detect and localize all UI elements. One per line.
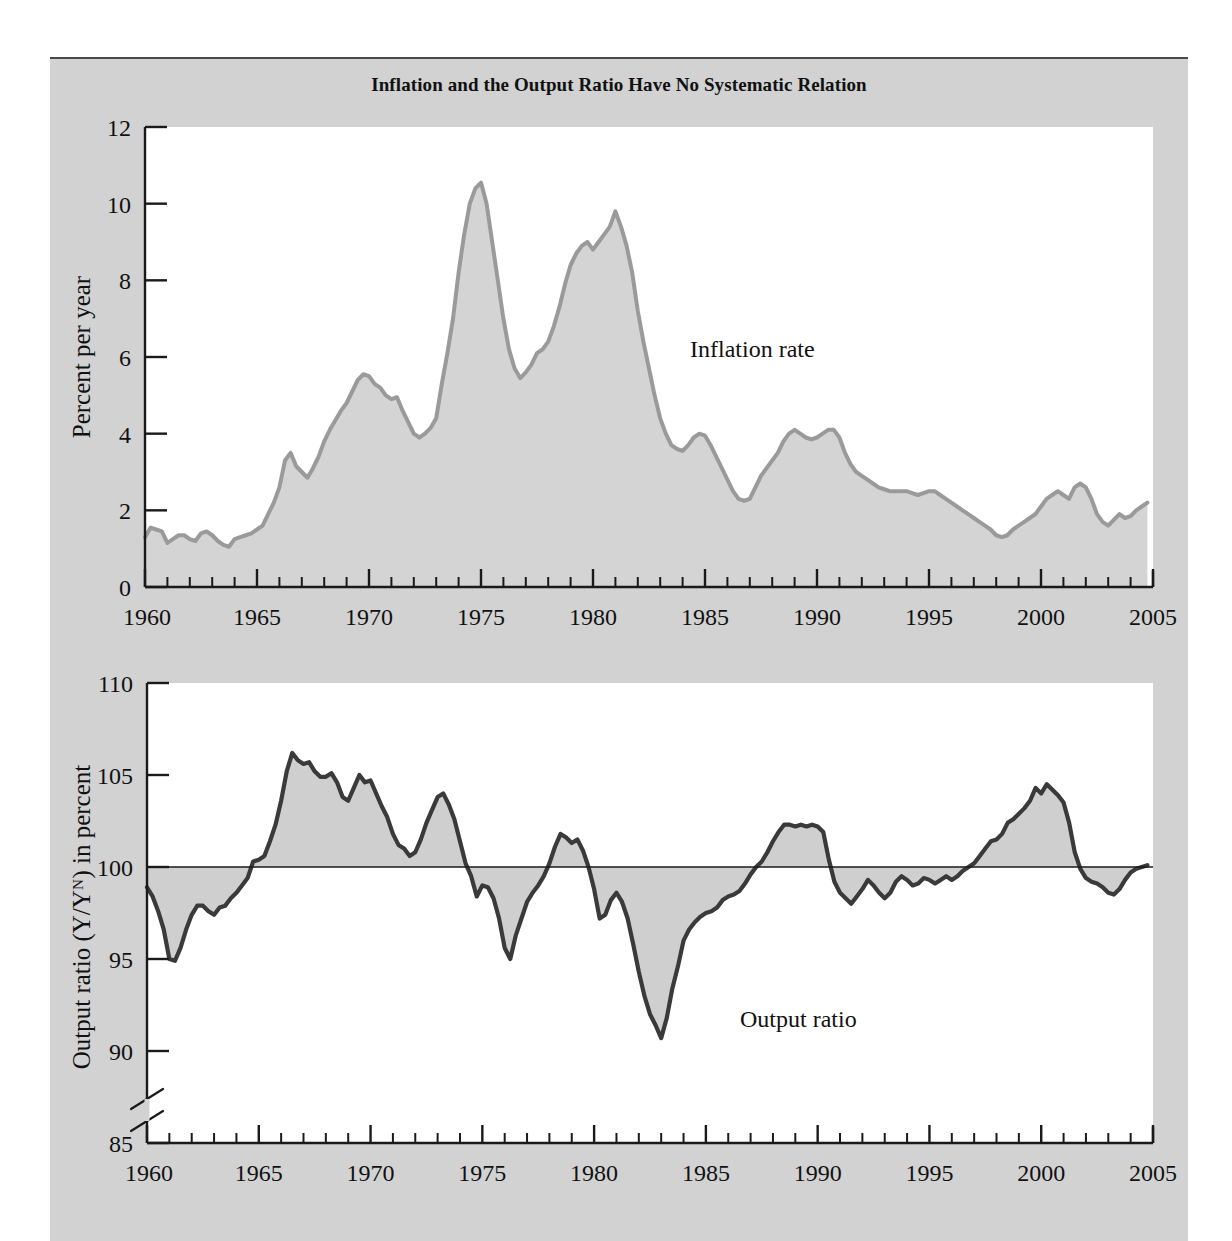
y-tick-label: 8: [119, 268, 131, 294]
x-tick-label: 1960: [123, 604, 171, 630]
x-tick-label: 1965: [233, 604, 281, 630]
inflation-xtick-labels: 1960196519701975198019851990199520002005: [123, 604, 1177, 630]
y-tick-label: 2: [119, 498, 131, 524]
y-tick-label: 90: [109, 1039, 133, 1065]
y-tick-label: 110: [98, 671, 133, 697]
inflation-ytick-labels: 024681012: [107, 115, 131, 601]
x-tick-label: 1975: [457, 604, 505, 630]
output-ytick-labels: 859095100105110: [97, 671, 133, 1157]
x-tick-label: 1990: [794, 1160, 842, 1186]
output-y-axis-title: Output ratio (Y/Yᴺ) in percent: [68, 765, 96, 1070]
y-tick-label: 85: [109, 1131, 133, 1157]
y-tick-label: 95: [109, 947, 133, 973]
y-tick-label: 6: [119, 345, 131, 371]
y-tick-label: 10: [107, 192, 131, 218]
figure-root: Inflation and the Output Ratio Have No S…: [0, 0, 1232, 1241]
x-tick-label: 1985: [682, 1160, 730, 1186]
y-tick-label: 100: [97, 855, 133, 881]
x-tick-label: 1965: [235, 1160, 283, 1186]
panel-inflation: 024681012 196019651970197519801985199019…: [50, 99, 1188, 679]
y-tick-label: 105: [97, 763, 133, 789]
y-tick-label: 0: [119, 575, 131, 601]
y-tick-label: 12: [107, 115, 131, 141]
output-ratio-chart-svg: 859095100105110 196019651970197519801985…: [50, 655, 1188, 1215]
inflation-chart-svg: 024681012 196019651970197519801985199019…: [50, 99, 1188, 679]
x-tick-label: 2005: [1129, 604, 1177, 630]
y-tick-label: 4: [119, 422, 131, 448]
x-tick-label: 1980: [569, 604, 617, 630]
x-tick-label: 1985: [681, 604, 729, 630]
inflation-series-label: Inflation rate: [690, 336, 815, 362]
x-tick-label: 1995: [905, 1160, 953, 1186]
x-tick-label: 1995: [905, 604, 953, 630]
x-tick-label: 1980: [570, 1160, 618, 1186]
chart-title: Inflation and the Output Ratio Have No S…: [50, 74, 1188, 96]
x-tick-label: 1970: [347, 1160, 395, 1186]
x-tick-label: 1970: [345, 604, 393, 630]
output-ratio-series-label: Output ratio: [740, 1006, 857, 1032]
panel-output-ratio: 859095100105110 196019651970197519801985…: [50, 655, 1188, 1215]
x-tick-label: 2000: [1017, 1160, 1065, 1186]
figure-panel: Inflation and the Output Ratio Have No S…: [50, 57, 1188, 1241]
x-tick-label: 1975: [458, 1160, 506, 1186]
x-tick-label: 1960: [125, 1160, 173, 1186]
x-tick-label: 2005: [1129, 1160, 1177, 1186]
x-tick-label: 2000: [1017, 604, 1065, 630]
x-tick-label: 1990: [793, 604, 841, 630]
inflation-y-axis-title: Percent per year: [68, 275, 95, 438]
output-xtick-labels: 1960196519701975198019851990199520002005: [125, 1160, 1177, 1186]
